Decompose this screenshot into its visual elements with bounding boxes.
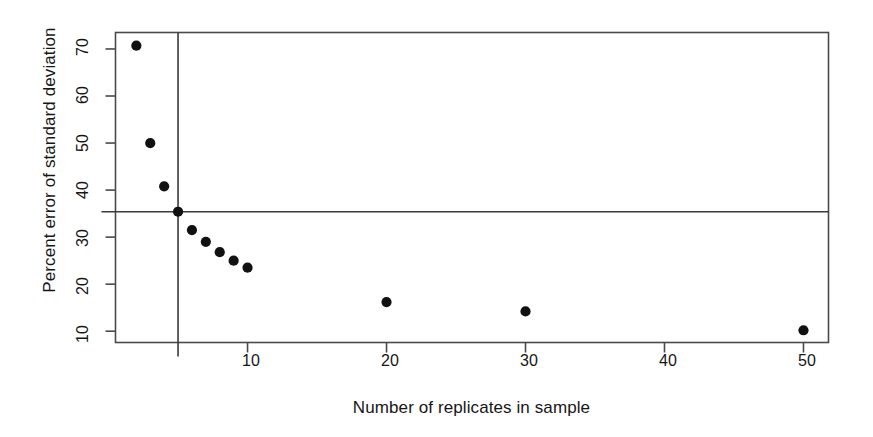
data-point-marker [159, 181, 169, 191]
data-point-marker [381, 297, 391, 307]
reference-lines [102, 33, 829, 357]
data-point-marker [173, 207, 183, 217]
data-point-marker [229, 256, 239, 266]
data-point-marker [215, 247, 225, 257]
data-point-marker [131, 41, 141, 51]
plot-area [0, 0, 873, 437]
data-point-marker [798, 325, 808, 335]
axes-frame [116, 33, 829, 343]
data-point-marker [187, 225, 197, 235]
axis-ticks [106, 49, 804, 353]
data-point-marker [145, 138, 155, 148]
data-point-marker [520, 306, 530, 316]
scatter-chart-figure: Percent error of standard deviation Numb… [0, 0, 873, 437]
data-point-marker [242, 263, 252, 273]
data-points [131, 41, 808, 336]
plot-frame-box [116, 33, 829, 343]
data-point-marker [201, 237, 211, 247]
